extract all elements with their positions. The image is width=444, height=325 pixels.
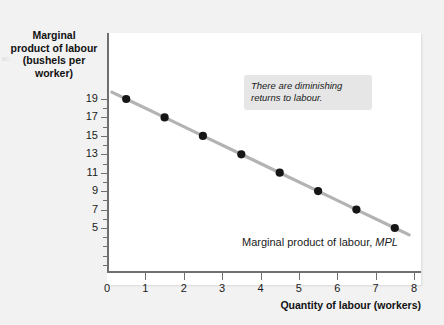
y-tick-label-7: 7 xyxy=(76,203,98,215)
y-axis-title-line-4: worker) xyxy=(35,67,73,79)
x-tick-label-7: 7 xyxy=(366,282,386,294)
x-tick-label-8: 8 xyxy=(404,282,424,294)
x-tick-8 xyxy=(414,273,415,280)
x-tick-4 xyxy=(261,273,262,280)
series-label-text: Marginal product of labour, xyxy=(242,236,372,248)
x-axis-title: Quantity of labour (workers) xyxy=(231,299,421,311)
y-tick-label-17: 17 xyxy=(76,110,98,122)
y-tick-5 xyxy=(101,228,108,229)
y-tick-13 xyxy=(101,154,108,155)
chart-page: Marginalproduct of labour(bushels perwor… xyxy=(0,0,444,325)
y-tick-11 xyxy=(101,173,108,174)
y-tick-19 xyxy=(101,99,108,100)
x-tick-3 xyxy=(222,273,223,280)
x-tick-6 xyxy=(337,273,338,280)
y-minor-tick-18 xyxy=(103,108,108,109)
y-tick-15 xyxy=(101,136,108,137)
y-minor-tick-16 xyxy=(103,127,108,128)
x-tick-label-5: 5 xyxy=(289,282,309,294)
y-axis-title: Marginalproduct of labour(bushels perwor… xyxy=(6,29,102,79)
y-tick-9 xyxy=(101,191,108,192)
diminishing-returns-annotation: There are diminishing returns to labour. xyxy=(244,75,372,110)
y-axis-title-line-1: Marginal xyxy=(32,29,75,41)
y-minor-tick-14 xyxy=(103,145,108,146)
x-axis-line xyxy=(107,271,421,273)
x-tick-1 xyxy=(145,273,146,280)
y-tick-label-19: 19 xyxy=(76,92,98,104)
x-tick-2 xyxy=(184,273,185,280)
annotation-line-1: There are diminishing xyxy=(251,80,342,91)
y-minor-tick-1 xyxy=(103,265,108,266)
x-tick-7 xyxy=(376,273,377,280)
y-axis-title-line-3: (bushels per xyxy=(23,54,85,66)
y-tick-17 xyxy=(101,117,108,118)
x-tick-label-1: 1 xyxy=(135,282,155,294)
y-minor-tick-6 xyxy=(103,219,108,220)
y-minor-tick-10 xyxy=(103,182,108,183)
y-minor-tick-4 xyxy=(103,237,108,238)
y-tick-7 xyxy=(101,210,108,211)
x-tick-label-4: 4 xyxy=(251,282,271,294)
y-tick-label-15: 15 xyxy=(76,129,98,141)
series-label-symbol: MPL xyxy=(375,236,398,248)
y-tick-label-13: 13 xyxy=(76,147,98,159)
y-tick-label-11: 11 xyxy=(76,166,98,178)
y-minor-tick-8 xyxy=(103,200,108,201)
y-minor-tick-12 xyxy=(103,164,108,165)
y-axis-title-line-2: product of labour xyxy=(11,42,98,54)
x-tick-label-6: 6 xyxy=(327,282,347,294)
x-tick-label-0: 0 xyxy=(97,282,117,294)
annotation-line-2: returns to labour. xyxy=(251,92,322,103)
y-minor-tick-3 xyxy=(103,246,108,247)
y-minor-tick-2 xyxy=(103,256,108,257)
y-tick-label-5: 5 xyxy=(76,221,98,233)
y-tick-label-9: 9 xyxy=(76,184,98,196)
x-tick-5 xyxy=(299,273,300,280)
series-label: Marginal product of labour, MPL xyxy=(242,236,398,248)
x-tick-label-2: 2 xyxy=(174,282,194,294)
x-tick-label-3: 3 xyxy=(212,282,232,294)
